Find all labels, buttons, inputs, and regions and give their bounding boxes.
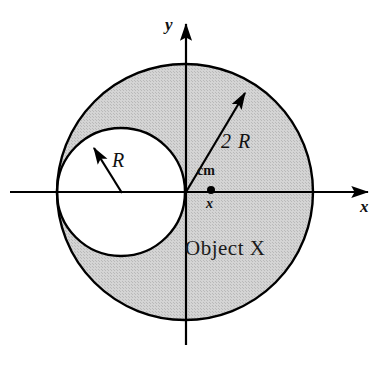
center-of-mass-dot (207, 186, 215, 194)
y-axis-label: y (165, 16, 173, 33)
outer-radius-label: 2 R (221, 131, 251, 151)
x-axis-label: x (360, 198, 369, 215)
figure-root: y x 2 R R cm x Object X (0, 0, 391, 367)
cm-axis-label: x (206, 197, 213, 211)
object-name-label: Object X (185, 238, 265, 259)
object-x-diagram (0, 0, 391, 367)
center-of-mass-label: cm (197, 164, 215, 178)
inner-radius-label: R (112, 150, 124, 170)
